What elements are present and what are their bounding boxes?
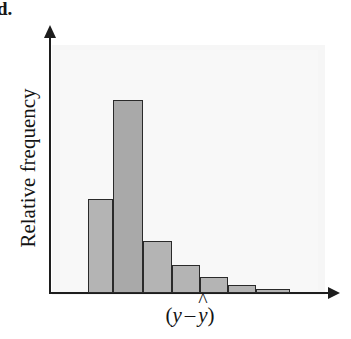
histogram-bars bbox=[0, 0, 351, 339]
y-axis-title: Relative frequency bbox=[16, 48, 41, 288]
x-axis-title: (y–^y) bbox=[50, 303, 330, 328]
figure-panel: d. Relative frequency (y–^y) bbox=[0, 0, 351, 339]
x-title-second-var-hatted: ^y bbox=[198, 303, 207, 328]
x-title-minus: – bbox=[182, 303, 199, 327]
histogram-bar bbox=[113, 100, 143, 293]
x-title-first-var: y bbox=[172, 303, 181, 327]
histogram-bar bbox=[172, 265, 200, 293]
histogram-bar bbox=[88, 199, 113, 293]
histogram-bar bbox=[256, 289, 290, 293]
hat-accent-icon: ^ bbox=[198, 291, 207, 311]
histogram-bar bbox=[228, 285, 256, 293]
histogram-bar bbox=[143, 241, 172, 293]
x-title-close-paren: ) bbox=[208, 303, 215, 327]
